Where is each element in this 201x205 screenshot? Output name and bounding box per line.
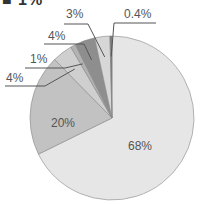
slice-label: 4% bbox=[48, 29, 66, 43]
slice-label: 20% bbox=[51, 116, 75, 130]
slice-label: 4% bbox=[6, 71, 24, 85]
slice-label: 1% bbox=[30, 52, 48, 66]
pie-chart: 68%20%4%1%4%3%0.4% bbox=[0, 0, 201, 205]
slice-label: 3% bbox=[66, 7, 84, 21]
slice-label: 0.4% bbox=[124, 7, 152, 21]
slice-label: 68% bbox=[128, 139, 152, 153]
